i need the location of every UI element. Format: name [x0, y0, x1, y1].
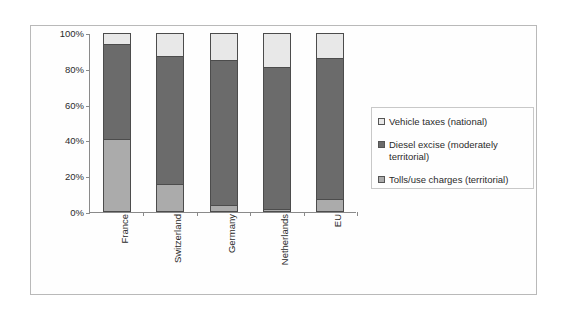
legend-item-label: Diesel excise (moderately territorial) — [389, 139, 528, 163]
bar-segment[interactable] — [156, 56, 184, 184]
chart-outer-frame: 100%80%60%40%20%0% FranceSwitzerlandGerm… — [30, 25, 537, 295]
legend-item-label: Vehicle taxes (national) — [389, 116, 487, 128]
y-axis-tick-mark — [86, 106, 90, 107]
bar-segment[interactable] — [103, 139, 131, 212]
y-axis-tick-mark — [86, 141, 90, 142]
stacked-bar-netherlands[interactable] — [263, 33, 291, 212]
bar-segment[interactable] — [263, 67, 291, 209]
stacked-bar-switzerland[interactable] — [156, 33, 184, 212]
chart-legend: Vehicle taxes (national)Diesel excise (m… — [371, 107, 534, 189]
bar-segment[interactable] — [263, 33, 291, 67]
legend-item[interactable]: Vehicle taxes (national) — [378, 116, 528, 128]
y-axis-tick-mark — [86, 177, 90, 178]
square-swatch-icon — [378, 176, 385, 183]
stacked-bar-chart: 100%80%60%40%20%0% FranceSwitzerlandGerm… — [31, 26, 538, 296]
legend-item[interactable]: Diesel excise (moderately territorial) — [378, 139, 528, 163]
y-axis: 100%80%60%40%20%0% — [31, 34, 84, 213]
bar-segment[interactable] — [316, 199, 344, 212]
plot-area — [89, 34, 356, 213]
bar-segment[interactable] — [210, 33, 238, 60]
x-axis-category-label: EU — [333, 214, 343, 227]
bar-segment[interactable] — [156, 33, 184, 56]
x-axis-category-label: France — [120, 214, 130, 244]
y-axis-tick-label: 100% — [31, 29, 84, 39]
bar-segment[interactable] — [316, 58, 344, 199]
bar-segment[interactable] — [103, 33, 131, 44]
x-axis-category-label: Germany — [227, 214, 237, 253]
bar-segment[interactable] — [210, 205, 238, 212]
stacked-bar-germany[interactable] — [210, 33, 238, 212]
bar-segment[interactable] — [156, 184, 184, 212]
y-axis-tick-label: 80% — [31, 65, 84, 75]
y-axis-tick-mark — [86, 70, 90, 71]
legend-item[interactable]: Tolls/use charges (territorial) — [378, 174, 528, 186]
y-axis-tick-label: 40% — [31, 137, 84, 147]
x-axis-category-label: Switzerland — [173, 214, 183, 263]
y-axis-tick-mark — [86, 34, 90, 35]
square-swatch-icon — [378, 118, 385, 125]
bar-segment[interactable] — [263, 209, 291, 212]
x-axis: FranceSwitzerlandGermanyNetherlandsEU — [89, 214, 356, 284]
y-axis-tick-label: 0% — [31, 208, 84, 218]
bar-segment[interactable] — [210, 60, 238, 205]
y-axis-tick-label: 60% — [31, 101, 84, 111]
stacked-bar-eu[interactable] — [316, 33, 344, 212]
stacked-bar-france[interactable] — [103, 33, 131, 212]
x-axis-tick-mark — [357, 212, 358, 216]
y-axis-tick-label: 20% — [31, 172, 84, 182]
legend-item-label: Tolls/use charges (territorial) — [389, 174, 508, 186]
x-axis-category-label: Netherlands — [280, 214, 290, 265]
square-swatch-icon — [378, 141, 385, 148]
bar-segment[interactable] — [316, 33, 344, 58]
bar-segment[interactable] — [103, 44, 131, 139]
